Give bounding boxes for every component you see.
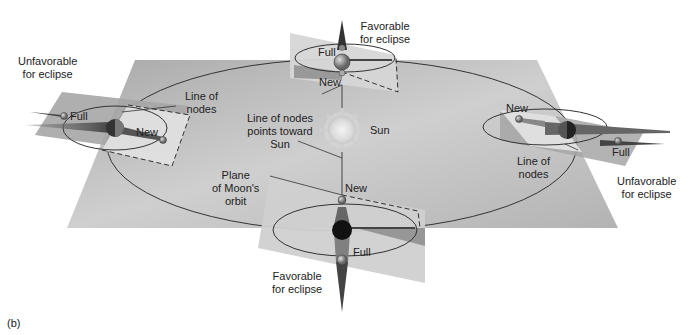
label-top-new: New (319, 76, 341, 89)
label-sun: Sun (370, 124, 390, 137)
label-right-status: Unfavorable for eclipse (617, 175, 676, 201)
status-line: Favorable (360, 20, 410, 33)
line-text: Line of nodes (247, 112, 313, 125)
status-line: for eclipse (272, 283, 322, 296)
label-top-status: Favorable for eclipse (360, 20, 410, 46)
label-bottom-status: Favorable for eclipse (272, 270, 322, 296)
line-text: Plane (212, 169, 259, 182)
label-plane-of-moons-orbit: Plane of Moon's orbit (212, 169, 259, 208)
label-bottom-full: Full (353, 246, 371, 259)
label-right-new: New (506, 102, 528, 115)
label-left-full: Full (70, 110, 88, 123)
status-line: Unfavorable (617, 175, 676, 188)
label-left-new: New (136, 126, 158, 139)
label-left-status: Unfavorable for eclipse (18, 55, 77, 81)
label-right-full: Full (612, 146, 630, 159)
line-text: of Moon's (212, 182, 259, 195)
line-text: nodes (517, 168, 550, 181)
label-top-full: Full (318, 46, 336, 59)
status-line: Favorable (272, 270, 322, 283)
line-text: points toward (247, 125, 313, 138)
status-line: for eclipse (360, 33, 410, 46)
label-bottom-new: New (345, 182, 367, 195)
diagram-canvas (0, 0, 695, 335)
status-line: for eclipse (18, 68, 77, 81)
line-text: Line of (517, 155, 550, 168)
panel-label: (b) (7, 317, 20, 330)
status-line: Unfavorable (18, 55, 77, 68)
label-left-line-of-nodes: Line of nodes (185, 90, 218, 116)
line-text: orbit (212, 195, 259, 208)
line-text: Sun (247, 138, 313, 151)
status-line: for eclipse (617, 188, 676, 201)
line-text: nodes (185, 103, 218, 116)
label-line-of-nodes-sun: Line of nodes points toward Sun (247, 112, 313, 151)
label-right-line-of-nodes: Line of nodes (517, 155, 550, 181)
line-text: Line of (185, 90, 218, 103)
